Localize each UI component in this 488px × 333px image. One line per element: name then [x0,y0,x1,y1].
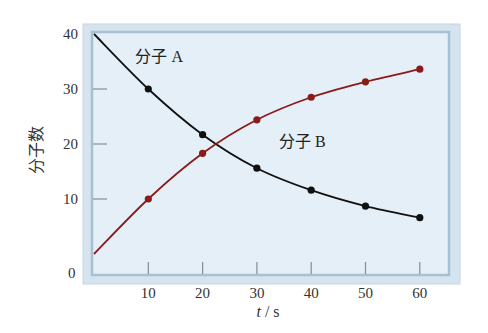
series-b-marker [308,94,315,101]
origin-label: 0 [68,265,76,281]
x-tick-label: 30 [249,285,264,301]
x-tick-label: 40 [304,285,319,301]
x-tick-label: 60 [412,285,427,301]
x-tick-label: 10 [141,285,156,301]
series-b-marker [416,66,423,73]
x-axis-label: t / s [256,303,279,320]
y-tick-label: 10 [63,191,78,207]
series-a-marker [308,187,315,194]
series-a-marker [416,214,423,221]
series-a-marker [362,203,369,210]
plot-area [92,32,449,275]
series-a-marker [145,85,152,92]
series-b-marker [362,78,369,85]
x-tick-label: 20 [195,285,210,301]
series-a-marker [199,131,206,138]
y-axis-label: 分子数 [28,126,45,174]
y-tick-label: 40 [63,26,78,42]
series-b-marker [145,195,152,202]
series-a-marker [253,165,260,172]
chart: 10203040102030405060 分子 A 分子 B 0 分子数 t /… [0,0,488,333]
series-label-b: 分子 B [279,133,326,150]
series-b-marker [199,150,206,157]
y-tick-label: 20 [63,136,78,152]
series-label-a: 分子 A [135,48,183,65]
series-b-marker [253,116,260,123]
x-axis-unit: / s [261,303,280,320]
x-tick-label: 50 [358,285,373,301]
y-tick-label: 30 [63,81,78,97]
